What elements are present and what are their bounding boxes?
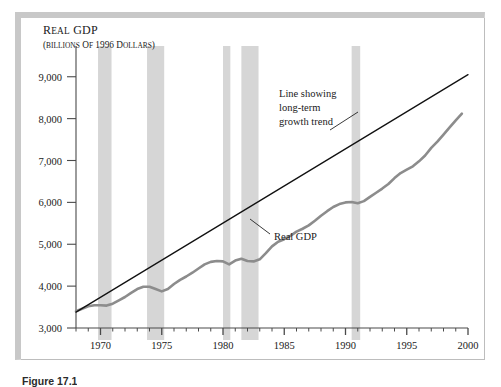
y-tick-label: 3,000 [38,323,62,334]
recession-band [98,46,111,340]
x-tick-label: 1980 [213,340,234,351]
x-tick-label: 1985 [274,340,295,351]
recession-band [241,46,258,340]
y-tick-label: 4,000 [38,281,62,292]
x-tick-label: 1990 [335,340,356,351]
annotation-leader-lines [250,112,358,234]
y-tick-label: 9,000 [38,72,62,83]
y-axis-tick-labels: 3,0004,0005,0006,0007,0008,0009,000 [38,72,62,334]
chart-title: REAL GDP [43,23,98,37]
chart-subtitle: (BILLIONS OF 1996 DOLLARS) [43,40,155,51]
trend-annotation-line-2: long-term [279,102,320,113]
y-tick-label: 7,000 [38,156,62,167]
trend-annotation-line-3: growth trend [279,116,334,127]
recession-band [352,46,361,340]
x-tick-label: 1995 [396,340,417,351]
chart-axes [76,46,468,328]
series-line [76,75,468,312]
x-axis-ticks [76,328,468,335]
x-tick-label: 2000 [458,340,479,351]
y-tick-label: 5,000 [38,239,62,250]
figure-caption: Figure 17.1 [22,375,77,387]
series-line [76,114,462,312]
y-tick-label: 6,000 [38,197,62,208]
y-axis-ticks [67,77,76,328]
x-axis-tick-labels: 1970197519801985199019952000 [90,340,479,351]
series-annotation-label: Real GDP [274,231,317,242]
x-tick-label: 1975 [151,340,172,351]
y-tick-label: 8,000 [38,114,62,125]
recession-band [223,46,230,340]
x-tick-label: 1970 [90,340,111,351]
chart-series [76,75,468,312]
recession-band [147,46,164,340]
trend-annotation-line-1: Line showing [279,88,337,99]
